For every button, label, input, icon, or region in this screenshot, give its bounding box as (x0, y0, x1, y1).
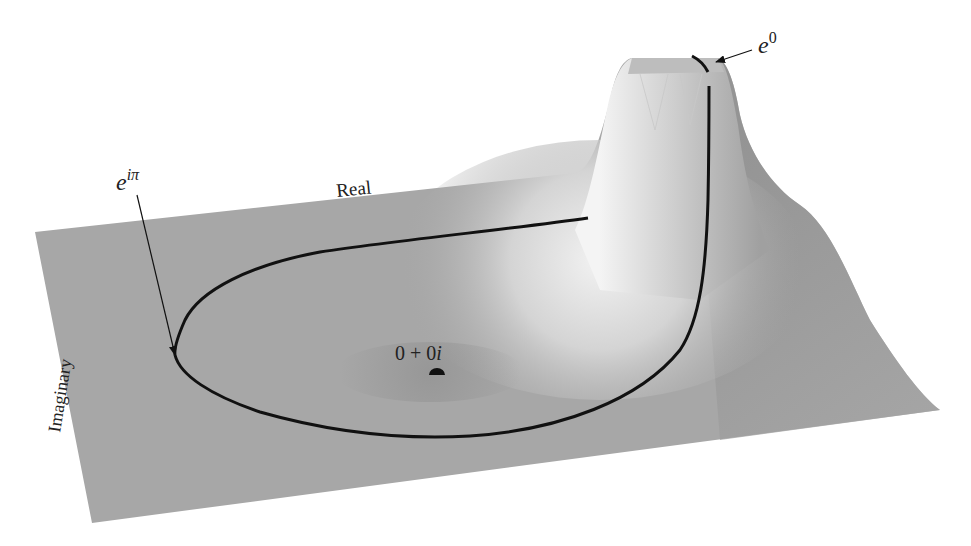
surface-peak (575, 58, 770, 300)
real-axis-label: Real (335, 176, 372, 201)
e-i-pi-label: eiπ (116, 166, 140, 195)
origin-label: 0 + 0i (395, 342, 442, 364)
peak-top (628, 58, 724, 74)
surface-plot: eiπ e0 Real 0 + 0i Imaginary (0, 0, 971, 546)
complex-surface-figure: eiπ e0 Real 0 + 0i Imaginary (0, 0, 971, 546)
e-zero-arrow (716, 50, 752, 62)
e-zero-label: e0 (758, 29, 777, 58)
